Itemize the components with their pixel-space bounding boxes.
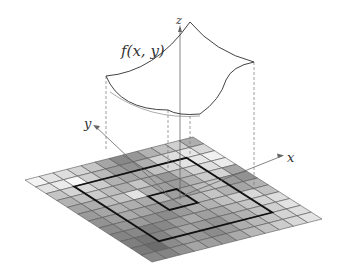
x-axis-arrowhead: [277, 154, 284, 159]
function-surface-diagram: f(x, y) x y z: [0, 0, 339, 278]
surface-back-right-edge: [190, 22, 254, 62]
diagram-stage: f(x, y) x y z: [0, 0, 339, 278]
surface-underside-edge: [110, 92, 200, 117]
y-axis-label: y: [83, 116, 92, 131]
z-axis-label: z: [175, 14, 182, 27]
function-label: f(x, y): [120, 42, 165, 60]
x-axis-label: x: [287, 150, 295, 165]
